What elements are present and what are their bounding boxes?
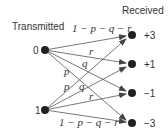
target-node-minus3 <box>128 119 136 127</box>
edge-label-q-lower: q <box>79 80 85 92</box>
diagram-svg: Transmitted Received 1 − p − q − r r q p… <box>0 0 168 140</box>
target-node-plus1 <box>128 60 136 68</box>
edge-label-p-lower: p <box>63 80 70 92</box>
target-node-minus1 <box>128 89 136 97</box>
target-label-minus3: −3 <box>144 118 156 129</box>
source-node-0 <box>41 46 49 54</box>
source-label-0: 0 <box>33 45 39 56</box>
received-heading: Received <box>122 5 164 16</box>
source-label-1: 1 <box>35 105 41 116</box>
edge-label-r-top: r <box>89 45 94 57</box>
edge-label-p-upper: p <box>63 65 70 77</box>
edge-label-q-top: q <box>82 57 88 69</box>
edge-1-to-plus3 <box>45 39 126 110</box>
edge-1-to-minus1 <box>45 94 126 110</box>
edge-label-r-bottom: r <box>89 90 94 102</box>
edge-0-to-plus3 <box>45 36 126 50</box>
edge-label-top: 1 − p − q − r <box>72 22 132 34</box>
channel-diagram: Transmitted Received 1 − p − q − r r q p… <box>0 0 168 140</box>
target-label-minus1: −1 <box>144 88 156 99</box>
source-node-1 <box>41 106 49 114</box>
target-node-plus3 <box>128 31 136 39</box>
transmitted-heading: Transmitted <box>12 21 64 32</box>
edge-1-to-plus1 <box>45 67 126 110</box>
edge-label-bottom: 1 − p − q − r <box>59 116 119 128</box>
target-label-plus3: +3 <box>144 30 156 41</box>
target-label-plus1: +1 <box>144 59 156 70</box>
